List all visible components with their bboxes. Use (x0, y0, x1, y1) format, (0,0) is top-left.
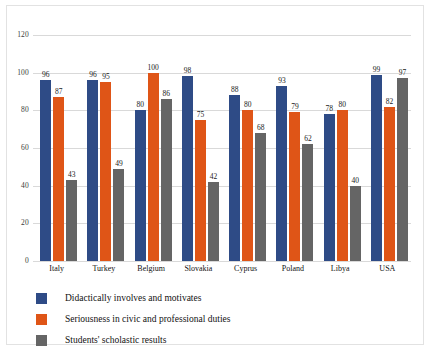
legend-label: Students' scholastic results (65, 335, 166, 346)
legend-color-swatch (36, 314, 47, 325)
bar[interactable]: 40 (350, 186, 361, 261)
bar[interactable]: 95 (100, 82, 111, 261)
bar-value-label: 68 (257, 124, 265, 132)
bar-group: 888068 (229, 35, 266, 261)
bar-value-label: 95 (102, 73, 110, 81)
bar[interactable]: 49 (113, 169, 124, 261)
legend-item[interactable]: Didactically involves and motivates (36, 288, 366, 309)
x-axis-category-label: Poland (269, 263, 316, 275)
bar-value-label: 49 (115, 160, 123, 168)
bar-group: 968743 (40, 35, 77, 261)
x-axis-category-label: Italy (33, 263, 80, 275)
x-axis-category-label: Libya (317, 263, 364, 275)
bar-value-label: 62 (304, 135, 312, 143)
bar-value-label: 80 (244, 101, 252, 109)
plot-area: 9687439695498010086987542888068937962788… (33, 35, 411, 261)
bar-value-label: 100 (148, 64, 159, 72)
legend-color-swatch (36, 335, 47, 346)
bar[interactable]: 80 (337, 110, 348, 261)
bar-value-label: 80 (338, 101, 346, 109)
bar-value-label: 42 (210, 173, 218, 181)
bar[interactable]: 78 (324, 114, 335, 261)
y-axis: 120100806040200 (5, 35, 29, 261)
bar-value-label: 98 (184, 67, 192, 75)
y-axis-tick-label: 60 (5, 144, 29, 152)
bar[interactable]: 99 (371, 75, 382, 261)
x-axis: ItalyTurkeyBelgiumSlovakiaCyprusPolandLi… (33, 263, 411, 279)
bar[interactable]: 42 (208, 182, 219, 261)
bar-value-label: 80 (136, 101, 144, 109)
bar[interactable]: 75 (195, 120, 206, 261)
y-axis-tick-label: 100 (5, 69, 29, 77)
x-axis-category-label: Turkey (80, 263, 127, 275)
bar-value-label: 79 (291, 103, 299, 111)
bar[interactable]: 43 (66, 180, 77, 261)
bar-value-label: 43 (68, 171, 76, 179)
bar[interactable]: 96 (40, 80, 51, 261)
bar[interactable]: 96 (87, 80, 98, 261)
bar[interactable]: 82 (384, 107, 395, 261)
bar-value-label: 40 (351, 177, 359, 185)
bar-value-label: 97 (399, 69, 407, 77)
bar[interactable]: 68 (255, 133, 266, 261)
y-axis-tick-label: 20 (5, 219, 29, 227)
bar[interactable]: 93 (276, 86, 287, 261)
bar[interactable]: 88 (229, 95, 240, 261)
x-axis-category-label: USA (364, 263, 411, 275)
gridline (33, 261, 411, 262)
bar-value-label: 88 (231, 86, 239, 94)
bar[interactable]: 86 (161, 99, 172, 261)
bar[interactable]: 80 (135, 110, 146, 261)
chart-legend: Didactically involves and motivatesSerio… (36, 288, 366, 351)
bar-value-label: 87 (55, 88, 63, 96)
x-axis-category-label: Cyprus (222, 263, 269, 275)
bar[interactable]: 87 (53, 97, 64, 261)
bar-group: 937962 (276, 35, 313, 261)
legend-item[interactable]: Students' scholastic results (36, 330, 366, 351)
bar[interactable]: 80 (242, 110, 253, 261)
x-axis-category-label: Slovakia (175, 263, 222, 275)
legend-label: Seriousness in civic and professional du… (65, 314, 230, 325)
bar[interactable]: 97 (397, 78, 408, 261)
bar-value-label: 75 (197, 111, 205, 119)
bar-group: 998297 (371, 35, 408, 261)
bar-group: 788040 (324, 35, 361, 261)
bar-group: 969549 (87, 35, 124, 261)
y-axis-tick-label: 80 (5, 106, 29, 114)
legend-item[interactable]: Seriousness in civic and professional du… (36, 309, 366, 330)
legend-color-swatch (36, 293, 47, 304)
bar-value-label: 82 (386, 98, 394, 106)
bar-group: 987542 (182, 35, 219, 261)
legend-label: Didactically involves and motivates (65, 293, 201, 304)
bar[interactable]: 98 (182, 76, 193, 261)
y-axis-tick-label: 120 (5, 31, 29, 39)
bar-group: 8010086 (135, 35, 172, 261)
bar-value-label: 96 (89, 71, 97, 79)
bar[interactable]: 79 (289, 112, 300, 261)
y-axis-tick-label: 0 (5, 257, 29, 265)
bar[interactable]: 100 (148, 73, 159, 261)
y-axis-tick-label: 40 (5, 182, 29, 190)
bar-value-label: 78 (325, 105, 333, 113)
bar-value-label: 93 (278, 77, 286, 85)
bar[interactable]: 62 (302, 144, 313, 261)
bar-chart: 120100806040200 968743969549801008698754… (0, 0, 433, 363)
bar-value-label: 96 (42, 71, 50, 79)
bar-value-label: 99 (373, 66, 381, 74)
x-axis-category-label: Belgium (128, 263, 175, 275)
bar-value-label: 86 (162, 90, 170, 98)
